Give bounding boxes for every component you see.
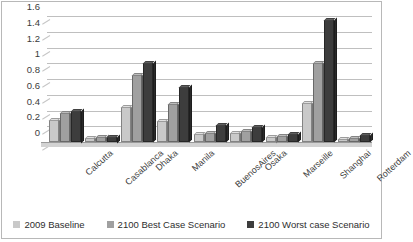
x-tick-label-manila: Manila [190, 148, 216, 173]
bar-front-face [324, 20, 334, 142]
bars-layer [47, 16, 372, 142]
legend-item-2[interactable]: 2100 Worst case Scenario [247, 219, 369, 230]
x-tick-label-rotterdam: Rotterdam [375, 148, 413, 184]
bar-top-face [229, 131, 241, 134]
bar-side-face [153, 61, 156, 143]
bar-side-face [262, 125, 265, 143]
bar-side-face [189, 84, 192, 142]
y-tick-label: 1.4 [27, 18, 40, 28]
bar-front-face [288, 134, 298, 142]
y-tick-label: 1 [35, 50, 40, 60]
bar-side-face [81, 108, 84, 143]
legend-swatch-icon [107, 221, 114, 228]
y-tick-label: 0.8 [27, 65, 40, 75]
bar-front-face [157, 121, 167, 142]
bar-front-face [216, 125, 226, 142]
legend-item-0[interactable]: 2009 Baseline [13, 219, 84, 230]
bar-front-face [71, 111, 81, 143]
y-tick-label: 1.2 [27, 34, 40, 44]
bar-side-face [226, 123, 229, 143]
legend-label: 2100 Best Case Scenario [118, 219, 226, 230]
bar-front-face [194, 134, 204, 142]
bar-top-face [265, 135, 277, 138]
bar-front-face [168, 104, 178, 142]
bar-front-face [179, 87, 189, 142]
y-tick-label: 0.2 [27, 113, 40, 123]
bar-front-face [49, 120, 59, 142]
bar-front-face [143, 63, 153, 142]
bar-front-face [302, 103, 312, 142]
y-tick-label: 0.6 [27, 81, 40, 91]
y-tick-label: 0 [35, 128, 40, 138]
legend-swatch-icon [247, 221, 254, 228]
bar-front-face [121, 107, 131, 142]
bar-front-face [313, 63, 323, 142]
y-tick-label: 1.6 [27, 2, 40, 12]
x-tick-label-calcutta: Calcutta [84, 148, 115, 178]
chart-legend: 2009 Baseline2100 Best Case Scenario2100… [2, 219, 381, 230]
bar-front-face [252, 127, 262, 142]
x-axis-labels: CalcuttaCasablancaDhakaManilaBuenosAires… [47, 148, 372, 206]
legend-label: 2009 Baseline [24, 219, 84, 230]
chart-container: 00.20.40.60.811.21.41.6 CalcuttaCasablan… [1, 1, 382, 239]
bar-front-face [241, 131, 251, 142]
y-axis: 00.20.40.60.811.21.41.6 [2, 2, 44, 142]
legend-item-1[interactable]: 2100 Best Case Scenario [107, 219, 226, 230]
legend-label: 2100 Worst case Scenario [258, 219, 369, 230]
y-tick-label: 0.4 [27, 97, 40, 107]
bar-side-face [334, 17, 337, 142]
x-tick-label-shanghai: Shanghai [338, 148, 373, 181]
bar-top-face [204, 131, 216, 134]
x-tick-label-marseille: Marseille [301, 148, 334, 180]
legend-swatch-icon [13, 221, 20, 228]
bar-front-face [132, 75, 142, 142]
bar-front-face [60, 113, 70, 142]
